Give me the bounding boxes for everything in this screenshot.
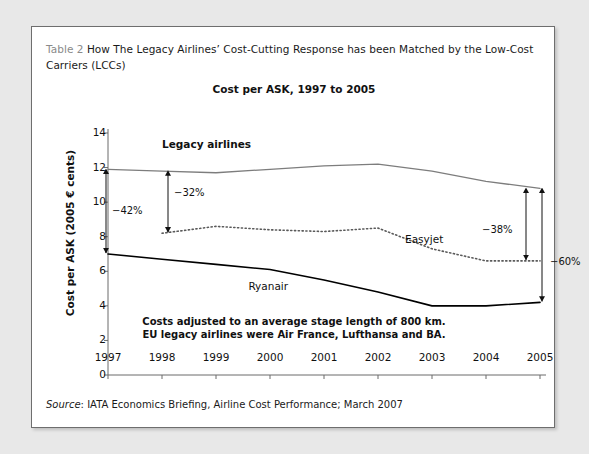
- x-axis-ticks: 199719981999200020012002200320042005: [32, 351, 556, 371]
- y-tick-14: 14: [80, 126, 106, 138]
- chart-svg: [32, 99, 556, 389]
- x-tick-1997: 1997: [95, 351, 122, 363]
- footnote-line-2: EU legacy airlines were Air France, Luft…: [32, 328, 556, 341]
- y-tick-10: 10: [80, 195, 106, 207]
- y-axis-label: Cost per ASK (2005 € cents): [64, 133, 76, 333]
- series-label-easyjet: Easyjet: [405, 233, 443, 245]
- chart-plot-area: Cost per ASK (2005 € cents) 14121086420 …: [32, 99, 556, 389]
- x-tick-2001: 2001: [311, 351, 338, 363]
- x-tick-1998: 1998: [149, 351, 176, 363]
- source-label: Source: [46, 399, 81, 410]
- y-tick-4: 4: [80, 299, 106, 311]
- y-tick-8: 8: [80, 230, 106, 242]
- y-tick-12: 12: [80, 161, 106, 173]
- series-label-legacy-airlines: Legacy airlines: [162, 138, 251, 150]
- chart-title: Cost per ASK, 1997 to 2005: [32, 83, 556, 95]
- x-tick-2005: 2005: [527, 351, 554, 363]
- annotation-label-drop-1997-legacy-ryanair: −42%: [112, 205, 143, 216]
- table-caption-text: How The Legacy Airlines’ Cost-Cutting Re…: [46, 43, 533, 71]
- y-tick-6: 6: [80, 264, 106, 276]
- table-caption-label: Table 2: [46, 43, 84, 55]
- series-line-legacy-airlines: [108, 164, 540, 188]
- footnote-line-1: Costs adjusted to an average stage lengt…: [32, 315, 556, 328]
- page-root: Table 2 How The Legacy Airlines’ Cost-Cu…: [0, 0, 589, 454]
- x-tick-2004: 2004: [473, 351, 500, 363]
- table-caption: Table 2 How The Legacy Airlines’ Cost-Cu…: [46, 41, 540, 73]
- series-line-ryanair: [108, 254, 540, 306]
- source-note: Source: IATA Economics Briefing, Airline…: [46, 399, 403, 410]
- x-tick-1999: 1999: [203, 351, 230, 363]
- x-tick-2002: 2002: [365, 351, 392, 363]
- y-axis-ticks: 14121086420: [76, 99, 106, 389]
- x-tick-2000: 2000: [257, 351, 284, 363]
- annotation-label-drop-2005-legacy-ryanair: −60%: [550, 256, 581, 267]
- source-text: : IATA Economics Briefing, Airline Cost …: [81, 399, 403, 410]
- table-card: Table 2 How The Legacy Airlines’ Cost-Cu…: [31, 26, 555, 428]
- annotation-label-drop-1998-legacy-easyjet: −32%: [174, 187, 205, 198]
- annotation-label-drop-2005-legacy-easyjet: −38%: [482, 224, 513, 235]
- series-label-ryanair: Ryanair: [248, 280, 288, 292]
- x-tick-2003: 2003: [419, 351, 446, 363]
